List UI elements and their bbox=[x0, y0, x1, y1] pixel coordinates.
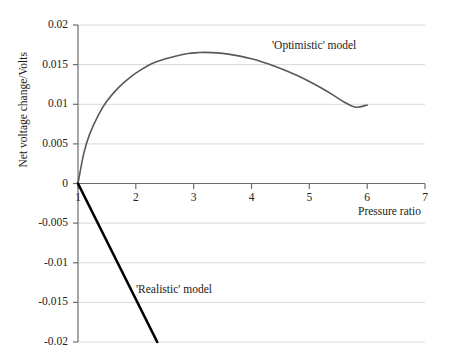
annotation-optimistic-model: 'Optimistic' model bbox=[272, 40, 356, 52]
x-tick-label: 1 bbox=[58, 192, 98, 204]
x-tick-label: 2 bbox=[116, 192, 156, 204]
y-tick-label: 0.005 bbox=[8, 138, 68, 150]
x-tick-label: 5 bbox=[289, 192, 329, 204]
x-tick-label: 7 bbox=[405, 192, 445, 204]
y-axis-title: Net voltage change/Volts bbox=[18, 30, 30, 190]
y-tick-label: -0.015 bbox=[8, 296, 68, 308]
annotation-realistic-model: 'Realistic' model bbox=[136, 284, 212, 296]
y-tick-label: -0.01 bbox=[8, 257, 68, 269]
y-tick-label: -0.02 bbox=[8, 336, 68, 348]
y-tick-label: 0.02 bbox=[8, 19, 68, 31]
y-tick-label: 0.01 bbox=[8, 98, 68, 110]
x-tick-label: 4 bbox=[232, 192, 272, 204]
x-tick-label: 6 bbox=[347, 192, 387, 204]
x-tick-label: 3 bbox=[174, 192, 214, 204]
chart-plot-area bbox=[0, 0, 460, 362]
y-tick-label: 0.015 bbox=[8, 59, 68, 71]
y-tick-label: 0 bbox=[8, 178, 68, 190]
chart-figure: Net voltage change/Volts Pressure ratio … bbox=[0, 0, 460, 362]
series-line-optimistic bbox=[78, 52, 367, 183]
x-axis-title: Pressure ratio bbox=[358, 206, 421, 218]
x-axis-ticks bbox=[78, 184, 425, 190]
y-tick-label: -0.005 bbox=[8, 217, 68, 229]
